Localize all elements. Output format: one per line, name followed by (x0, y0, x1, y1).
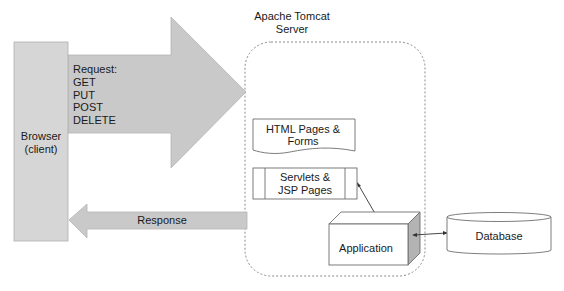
request-method-put: PUT (73, 89, 95, 101)
servlets-label-line2: JSP Pages (278, 184, 333, 196)
tomcat-title-line2: Server (276, 23, 309, 35)
response-label: Response (137, 214, 187, 226)
architecture-diagram: Apache Tomcat Server Request: GET PUT PO… (0, 0, 564, 291)
browser-label-line2: (client) (24, 143, 57, 155)
browser-label-line1: Browser (21, 130, 62, 142)
request-heading: Request: (73, 63, 117, 75)
html-pages-label-line2: Forms (287, 135, 319, 147)
database-label: Database (475, 230, 522, 242)
html-pages-label-line1: HTML Pages & (266, 123, 341, 135)
request-method-delete: DELETE (73, 114, 116, 126)
request-method-post: POST (73, 101, 103, 113)
application-label: Application (339, 242, 393, 254)
application-cube (329, 212, 420, 265)
request-method-get: GET (73, 76, 96, 88)
servlets-label-line1: Servlets & (280, 171, 331, 183)
tomcat-title-line1: Apache Tomcat (254, 10, 330, 22)
